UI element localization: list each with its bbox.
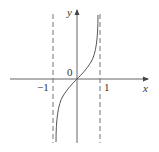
function-graph: y x 0 −1 1 (0, 0, 159, 152)
graph-canvas: y x 0 −1 1 (0, 0, 159, 152)
x-axis-label: x (142, 82, 148, 94)
origin-label: 0 (67, 66, 73, 78)
y-axis-label: y (66, 6, 72, 18)
tick-label-neg-1: −1 (37, 81, 49, 93)
tick-label-1: 1 (104, 81, 110, 93)
